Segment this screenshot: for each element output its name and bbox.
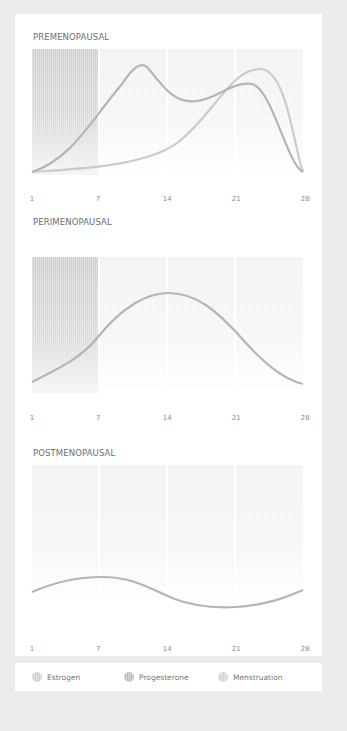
estrogen-line: [32, 65, 303, 172]
tick: 28: [301, 645, 310, 653]
menstruation-swatch-icon: [218, 672, 228, 682]
legend: Estrogen Progesterone Menstruation: [15, 663, 322, 691]
tick: 7: [96, 414, 100, 422]
x-axis-ticks: 1 7 14 21 28: [32, 414, 308, 424]
estrogen-line: [32, 293, 303, 384]
premenopausal-plot: [32, 49, 303, 175]
legend-item-menstruation: Menstruation: [218, 672, 283, 682]
perimenopausal-lines: [32, 257, 303, 393]
tick: 21: [232, 414, 241, 422]
x-axis-ticks: 1 7 14 21 28: [32, 645, 308, 655]
progesterone-swatch-icon: [124, 672, 134, 682]
legend-label: Menstruation: [233, 673, 283, 682]
tick: 1: [30, 645, 34, 653]
tick: 1: [30, 195, 34, 203]
tick: 14: [163, 195, 172, 203]
premenopausal-lines: [32, 49, 303, 175]
legend-label: Estrogen: [47, 673, 80, 682]
tick: 14: [163, 414, 172, 422]
estrogen-swatch-icon: [32, 672, 42, 682]
panel-title: PREMENOPAUSAL: [33, 32, 109, 42]
tick: 21: [232, 195, 241, 203]
tick: 7: [96, 195, 100, 203]
panel-title: POSTMENOPAUSAL: [33, 448, 115, 458]
estrogen-line: [32, 577, 303, 607]
progesterone-line: [32, 69, 303, 172]
perimenopausal-plot: [32, 257, 303, 393]
tick: 28: [301, 414, 310, 422]
tick: 21: [232, 645, 241, 653]
x-axis-ticks: 1 7 14 21 28: [32, 195, 308, 205]
chart-card: PREMENOPAUSAL 1 7 14 21 28 PERIMENOPAUSA…: [15, 14, 322, 656]
postmenopausal-plot: [32, 465, 303, 605]
legend-item-estrogen: Estrogen: [32, 672, 80, 682]
postmenopausal-lines: [32, 465, 303, 605]
tick: 1: [30, 414, 34, 422]
legend-item-progesterone: Progesterone: [124, 672, 189, 682]
panel-title: PERIMENOPAUSAL: [33, 217, 112, 227]
tick: 28: [301, 195, 310, 203]
tick: 14: [163, 645, 172, 653]
legend-label: Progesterone: [139, 673, 189, 682]
tick: 7: [96, 645, 100, 653]
